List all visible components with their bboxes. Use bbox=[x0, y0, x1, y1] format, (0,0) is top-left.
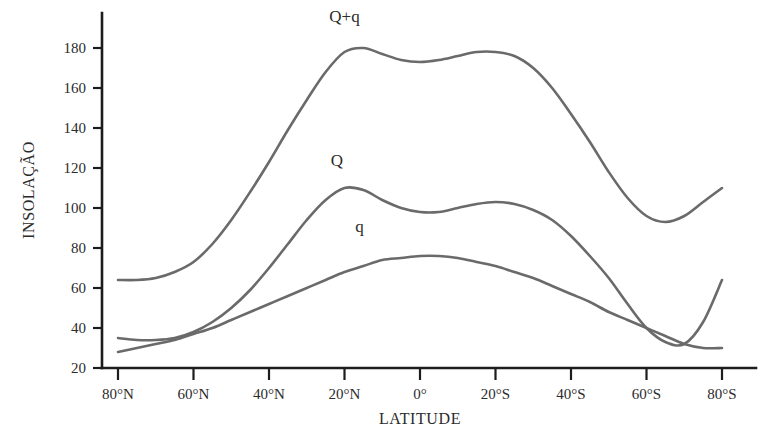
y-tick-label: 160 bbox=[64, 80, 87, 96]
chart-figure: 20406080100120140160180 80°N60°N40°N20°N… bbox=[0, 0, 779, 448]
x-tick-label: 20°S bbox=[481, 386, 510, 402]
x-tick-label: 0° bbox=[413, 386, 427, 402]
series-line-Qplusq bbox=[118, 48, 722, 280]
series-inline-labels: Q+qQq bbox=[329, 7, 364, 236]
y-tick-label: 180 bbox=[64, 40, 87, 56]
axis-lines bbox=[102, 13, 756, 368]
y-axis-tick-labels: 20406080100120140160180 bbox=[64, 40, 87, 376]
y-tick-label: 60 bbox=[71, 280, 86, 296]
y-axis-title: INSOLAÇÃO bbox=[20, 141, 38, 239]
series-line-q bbox=[118, 256, 722, 352]
y-axis-ticks bbox=[93, 48, 102, 368]
y-tick-label: 20 bbox=[71, 360, 86, 376]
y-tick-label: 120 bbox=[64, 160, 87, 176]
series-label-Qplusq: Q+q bbox=[329, 7, 360, 26]
y-tick-label: 40 bbox=[71, 320, 86, 336]
series-label-q: q bbox=[355, 217, 364, 236]
x-axis-ticks bbox=[118, 368, 722, 380]
x-tick-label: 80°N bbox=[102, 386, 134, 402]
x-tick-label: 40°S bbox=[556, 386, 585, 402]
x-tick-label: 80°S bbox=[707, 386, 736, 402]
x-axis-title: LATITUDE bbox=[379, 410, 461, 427]
y-tick-label: 100 bbox=[64, 200, 87, 216]
x-tick-label: 40°N bbox=[253, 386, 285, 402]
x-tick-label: 60°S bbox=[632, 386, 661, 402]
y-tick-label: 80 bbox=[71, 240, 86, 256]
x-tick-label: 20°N bbox=[329, 386, 361, 402]
x-tick-label: 60°N bbox=[178, 386, 210, 402]
insolation-latitude-chart: 20406080100120140160180 80°N60°N40°N20°N… bbox=[0, 0, 779, 448]
series-paths bbox=[118, 48, 722, 352]
x-axis-tick-labels: 80°N60°N40°N20°N0°20°S40°S60°S80°S bbox=[102, 386, 737, 402]
series-label-Q: Q bbox=[331, 151, 343, 170]
y-tick-label: 140 bbox=[64, 120, 87, 136]
